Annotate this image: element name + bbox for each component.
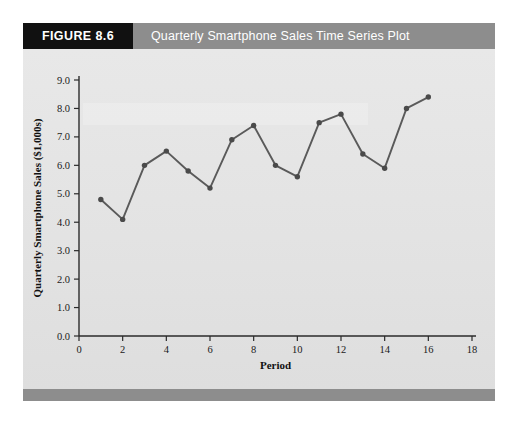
x-axis-tick-label: 4 [164,344,170,355]
y-axis-tick-label: 2.0 [57,274,70,285]
x-axis-tick-label: 16 [423,344,434,355]
data-point-marker [251,123,256,128]
figure-footer-bar [23,389,495,401]
figure-container: FIGURE 8.6 Quarterly Smartphone Sales Ti… [0,0,519,421]
data-point-marker [338,111,343,116]
figure-title: Quarterly Smartphone Sales Time Series P… [133,23,495,49]
y-axis-tick-label: 5.0 [57,188,70,199]
data-point-marker [382,165,387,170]
figure-number-label: FIGURE 8.6 [23,23,133,49]
x-axis-tick-label: 14 [379,344,390,355]
y-axis-tick-label: 0.0 [57,331,70,342]
time-series-chart: 0.01.02.03.04.05.06.07.08.09.00246810121… [23,49,495,389]
data-point-marker [185,168,190,173]
x-axis-tick-label: 12 [336,344,347,355]
x-axis-tick-label: 10 [292,344,303,355]
data-point-marker [426,94,431,99]
y-axis-tick-label: 3.0 [57,245,70,256]
y-axis-tick-label: 1.0 [57,302,70,313]
x-axis-tick-label: 8 [251,344,256,355]
data-point-marker [360,151,365,156]
y-axis-tick-label: 4.0 [57,217,70,228]
x-axis-tick-label: 2 [120,344,125,355]
x-axis-tick-label: 18 [467,344,478,355]
figure-header: FIGURE 8.6 Quarterly Smartphone Sales Ti… [23,23,495,49]
data-point-marker [164,148,169,153]
series-line-quarterly-sales [101,97,429,219]
data-point-marker [120,217,125,222]
x-axis-tick-label: 6 [207,344,212,355]
y-axis-title: Quarterly Smartphone Sales ($1,000s) [31,118,44,297]
x-axis-tick-label: 0 [76,344,81,355]
data-point-marker [229,137,234,142]
y-axis-tick-label: 9.0 [57,75,70,86]
y-axis-tick-label: 8.0 [57,103,70,114]
data-point-marker [207,185,212,190]
data-point-marker [142,163,147,168]
data-point-marker [98,197,103,202]
x-axis-title: Period [260,359,291,371]
data-point-marker [316,120,321,125]
data-point-marker [295,174,300,179]
data-point-marker [404,106,409,111]
data-point-marker [273,163,278,168]
y-axis-tick-label: 6.0 [57,160,70,171]
y-axis-tick-label: 7.0 [57,131,70,142]
